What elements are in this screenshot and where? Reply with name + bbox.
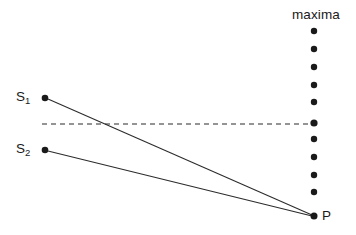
maxima-dot (311, 99, 317, 105)
diagram-canvas (0, 0, 356, 235)
source-label-s2: S2 (16, 142, 30, 157)
maxima-dot (311, 136, 317, 142)
maxima-dot (311, 46, 317, 52)
source-label-s2-subscript: 2 (25, 147, 30, 158)
maxima-dot-central (310, 119, 317, 126)
ray-s1-to-p (48, 99, 312, 215)
source-dot-s2 (42, 147, 49, 154)
source-label-s1: S1 (16, 90, 30, 105)
source-dot-s1 (42, 95, 49, 102)
maxima-label: maxima (292, 8, 340, 22)
maxima-dot (311, 28, 317, 34)
ray-s2-to-p (48, 151, 312, 216)
maxima-dot (311, 82, 317, 88)
maxima-dot (311, 64, 317, 70)
maxima-dot (311, 189, 317, 195)
point-label-p: P (322, 209, 331, 223)
point-dot-p (311, 213, 318, 220)
interference-diagram: maxima S1 S2 P (0, 0, 356, 235)
maxima-dot-column (310, 28, 317, 195)
source-label-s2-main: S (16, 141, 25, 156)
source-label-s1-main: S (16, 89, 25, 104)
maxima-dot (311, 172, 317, 178)
source-label-s1-subscript: 1 (25, 95, 30, 106)
maxima-dot (311, 154, 317, 160)
